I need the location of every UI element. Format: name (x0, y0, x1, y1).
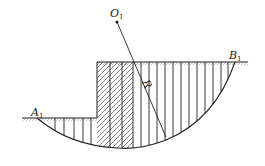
point-b1-label: B1 (228, 49, 242, 63)
ground-profile (22, 62, 248, 118)
hatched-slices (97, 62, 133, 152)
center-label: O1 (110, 7, 124, 21)
slope-stability-diagram: O1 B1 A1 R (0, 0, 265, 166)
ground-surface-hatch (22, 62, 248, 121)
point-a1-label: A1 (30, 106, 43, 120)
slice-lines (55, 62, 228, 160)
